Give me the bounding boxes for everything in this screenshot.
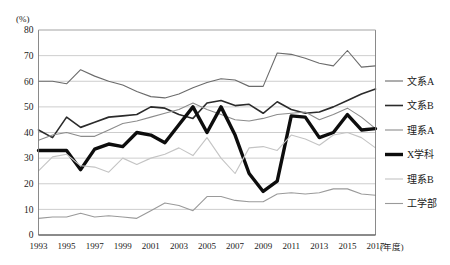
- chart-container: 01020304050607080 1993199519971999200120…: [0, 0, 450, 265]
- y-tick-label-60: 60: [24, 77, 34, 87]
- y-tick-label-80: 80: [24, 25, 34, 35]
- x-tick-label-1995: 1995: [58, 241, 77, 251]
- y-axis-tick-labels: 01020304050607080: [24, 25, 34, 240]
- y-tick-label-20: 20: [24, 179, 34, 189]
- legend: 文系A文系B理系AX学科理系B工学部: [385, 75, 437, 210]
- y-axis-unit-label: (%): [16, 14, 30, 24]
- legend-label-5: 工学部: [407, 197, 437, 209]
- series-line-3: [39, 107, 376, 192]
- series-line-4: [39, 133, 376, 174]
- x-tick-label-2011: 2011: [282, 241, 300, 251]
- y-tick-label-10: 10: [24, 205, 34, 215]
- y-tick-label-50: 50: [24, 102, 34, 112]
- legend-item-3[interactable]: X学科: [385, 148, 434, 160]
- legend-item-2[interactable]: 理系A: [385, 125, 435, 136]
- x-tick-label-1993: 1993: [30, 241, 49, 251]
- series-line-0: [39, 51, 376, 98]
- y-tick-label-30: 30: [24, 153, 34, 163]
- x-axis-tick-labels: 1993199519971999200120032005200720092011…: [30, 241, 386, 251]
- x-tick-label-2013: 2013: [310, 241, 329, 251]
- x-axis-unit-label: (年度): [380, 242, 404, 252]
- legend-label-3: X学科: [407, 148, 434, 160]
- x-tick-label-2003: 2003: [170, 241, 189, 251]
- legend-label-2: 理系A: [407, 125, 435, 136]
- legend-item-5[interactable]: 工学部: [385, 197, 437, 209]
- x-tick-label-1997: 1997: [86, 241, 105, 251]
- legend-item-4[interactable]: 理系B: [385, 174, 434, 185]
- legend-item-1[interactable]: 文系B: [385, 99, 434, 111]
- x-tick-label-1999: 1999: [114, 241, 133, 251]
- line-chart: 01020304050607080 1993199519971999200120…: [0, 0, 450, 265]
- data-series-group: [39, 51, 376, 219]
- legend-label-1: 文系B: [407, 99, 434, 111]
- legend-item-0[interactable]: 文系A: [385, 75, 435, 87]
- x-tick-label-2015: 2015: [338, 241, 357, 251]
- y-tick-label-0: 0: [29, 230, 34, 240]
- x-tick-label-2001: 2001: [142, 241, 160, 251]
- y-tick-label-70: 70: [24, 51, 34, 61]
- y-tick-label-40: 40: [24, 128, 34, 138]
- series-line-5: [39, 189, 376, 218]
- x-tick-label-2009: 2009: [254, 241, 273, 251]
- legend-label-4: 理系B: [407, 174, 434, 185]
- legend-label-0: 文系A: [407, 75, 435, 87]
- x-tick-label-2005: 2005: [198, 241, 217, 251]
- x-tick-label-2007: 2007: [226, 241, 245, 251]
